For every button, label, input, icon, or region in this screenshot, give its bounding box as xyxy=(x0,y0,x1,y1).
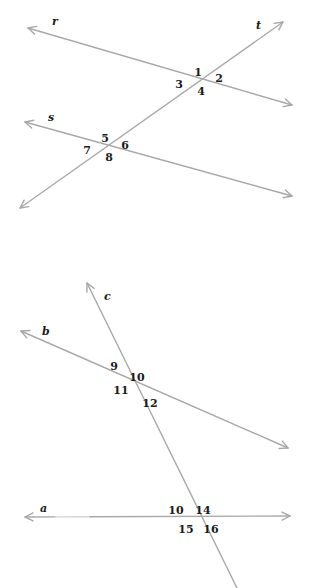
angle-label: 14 xyxy=(195,504,211,517)
parallel-lines-transversal-diagram: rst12345678cba910111210141516 xyxy=(0,0,309,588)
angle-label: 12 xyxy=(142,397,157,410)
line-label-r: r xyxy=(52,15,59,28)
angle-label: 1 xyxy=(194,66,202,79)
labels-layer: rst12345678cba910111210141516 xyxy=(40,15,261,536)
line-b-segment xyxy=(21,331,288,448)
line-label-c: c xyxy=(104,290,111,303)
angle-label: 16 xyxy=(203,523,219,536)
line-label-s: s xyxy=(48,111,54,124)
angle-label: 4 xyxy=(197,85,205,98)
angle-label: 11 xyxy=(113,384,128,397)
line-r xyxy=(28,26,292,106)
angle-label: 7 xyxy=(83,144,91,157)
line-c-segment xyxy=(87,283,237,588)
angle-label: 6 xyxy=(121,139,129,152)
angle-label: 9 xyxy=(110,360,118,373)
angle-label: 10 xyxy=(129,371,145,384)
angle-label: 15 xyxy=(178,523,193,536)
line-t-segment xyxy=(20,22,283,208)
line-s xyxy=(25,120,292,197)
line-a xyxy=(25,512,290,521)
line-label-a: a xyxy=(40,502,47,515)
line-r-segment xyxy=(28,28,292,105)
lines-layer xyxy=(20,22,292,588)
line-b xyxy=(21,331,288,449)
line-label-b: b xyxy=(42,325,50,338)
line-c xyxy=(87,283,237,588)
angle-label: 10 xyxy=(168,504,184,517)
line-label-t: t xyxy=(256,19,261,32)
angle-label: 8 xyxy=(105,151,113,164)
line-a-segment xyxy=(90,516,290,517)
angle-label: 2 xyxy=(215,72,223,85)
angle-label: 3 xyxy=(175,78,183,91)
angle-label: 5 xyxy=(101,132,109,145)
line-t xyxy=(20,22,283,208)
line-s-segment xyxy=(25,122,292,196)
